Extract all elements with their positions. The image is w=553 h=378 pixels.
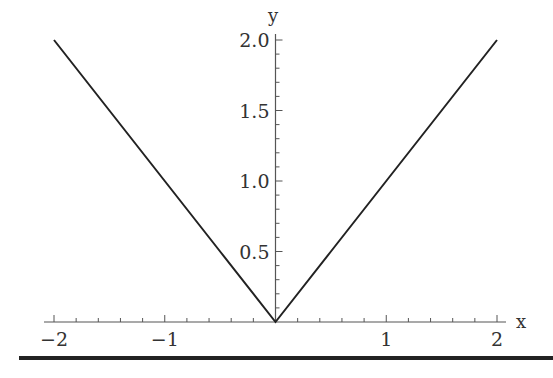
y-tick-label: 2.0 <box>239 29 269 51</box>
x-tick-label: −2 <box>40 328 68 350</box>
tick-labels: −2−1120.51.01.52.0 <box>40 29 503 350</box>
x-tick-label: −1 <box>151 328 179 350</box>
bottom-rule-divider <box>19 356 553 360</box>
y-tick-label: 1.5 <box>239 100 269 122</box>
x-tick-label: 2 <box>491 328 503 350</box>
y-tick-label: 1.0 <box>239 170 269 192</box>
axes <box>44 34 506 322</box>
plot-area: −2−1120.51.01.52.0 x y <box>0 0 553 378</box>
y-tick-label: 0.5 <box>239 241 269 263</box>
x-tick-label: 1 <box>380 328 392 350</box>
x-axis-label: x <box>516 311 526 332</box>
y-axis-label: y <box>267 5 279 26</box>
ticks <box>54 40 497 322</box>
